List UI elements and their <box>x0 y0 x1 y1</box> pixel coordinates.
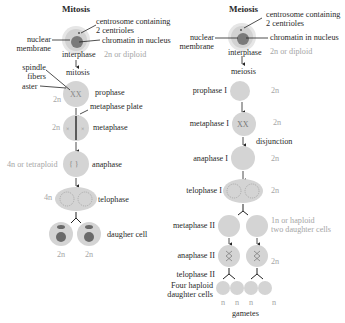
svg-text:×: × <box>81 126 84 132</box>
meiosis-gamete-ploidy-2: n <box>235 298 239 307</box>
mitosis-stage-telophase: telophase <box>98 195 129 204</box>
mitosis-nuclear-membrane-label: nuclearmembrane <box>5 35 51 53</box>
mitosis-stage-anaphase: anaphase <box>92 160 122 169</box>
mitosis-spindle-label: spindlefibers <box>10 63 46 81</box>
meiosis-metaphase2-cell-a <box>218 215 240 237</box>
svg-text:XX: XX <box>70 90 82 99</box>
mitosis-daughter-ploidy-2: 2n <box>85 250 93 259</box>
meiosis-stage-meiosis: meiosis <box>231 67 256 76</box>
meiosis-gamete-ploidy-4: n <box>272 298 276 307</box>
mitosis-stage-mitosis: mitosis <box>66 68 90 77</box>
meiosis-ploidy-anaphase1: 2n <box>271 154 279 163</box>
mitosis-anaphase-cell: { } <box>63 151 89 177</box>
meiosis-ploidy-metaphase2: 1n or haploidtwo daughter cells <box>271 216 331 234</box>
meiosis-gamete-ploidy-3: n <box>249 298 253 307</box>
meiosis-anaphase2-cell-b <box>246 245 268 267</box>
meiosis-stage-telophase2: telophase II <box>160 270 215 279</box>
meiosis-gamete-ploidy-1: n <box>221 298 225 307</box>
meiosis-chromatin-label: chromatin in nucleus <box>270 33 339 42</box>
meiosis-gametes-caption: gametes <box>232 309 259 318</box>
meiosis-disjunction-label: disjunction <box>256 137 292 146</box>
mitosis-stage-metaphase: metaphase <box>93 123 128 132</box>
mitosis-ploidy-metaphase: 2n <box>52 123 60 132</box>
mitosis-prophase-cell: XX <box>63 81 89 107</box>
meiosis-ploidy-interphase: 2n or diploid <box>270 47 312 56</box>
mitosis-stage-prophase: prophase <box>95 88 125 97</box>
meiosis-ploidy-anaphase2: 2n <box>271 257 279 266</box>
mitosis-centrosome-label: centrosome containing2 centrioles <box>96 17 170 35</box>
mitosis-stage-interphase: interphase <box>62 50 96 59</box>
mitosis-ploidy-anaphase: 4n or tetraploid <box>7 160 57 169</box>
meiosis-stage-metaphase2: metaphase II <box>160 221 215 230</box>
meiosis-interphase-cell <box>228 23 256 51</box>
meiosis-ploidy-telophase1: 2n <box>271 186 279 195</box>
mitosis-title: Mitosis <box>62 5 90 14</box>
mitosis-telophase-cell <box>55 187 97 211</box>
meiosis-anaphase1-cell <box>231 146 255 170</box>
mitosis-ploidy-interphase: 2n or diploid <box>104 50 146 59</box>
meiosis-stage-telophase1: telophase I <box>170 186 222 195</box>
mitosis-metaphase-cell: × × <box>63 115 89 141</box>
svg-text:{ }: { } <box>69 160 79 169</box>
meiosis-stage-metaphase1: metaphase I <box>170 119 229 128</box>
mitosis-ploidy-prophase: 2n <box>53 95 61 104</box>
meiosis-centrosome-label: centrosome containing2 centrioles <box>266 10 340 28</box>
mitosis-stage-daughter-cell: daugher cell <box>107 230 147 239</box>
svg-text:XX: XX <box>237 120 249 129</box>
mitosis-daughter-ploidy-1: 2n <box>57 250 65 259</box>
meiosis-ploidy-metaphase1: 2n <box>273 118 281 127</box>
mitosis-ploidy-telophase: 4n <box>44 193 52 202</box>
meiosis-anaphase2-cell-a <box>218 245 240 267</box>
meiosis-gametes <box>216 281 272 295</box>
meiosis-title: Meiosis <box>229 5 258 14</box>
mitosis-daughter-cells <box>49 222 101 246</box>
meiosis-stage-anaphase2: anaphase II <box>160 251 215 260</box>
mitosis-aster-label: aster <box>22 82 37 91</box>
meiosis-stage-prophase1: prophase I <box>170 86 227 95</box>
meiosis-stage-interphase: interphase <box>228 48 262 57</box>
meiosis-telophase1-cell <box>223 179 263 203</box>
meiosis-metaphase2-cell-b <box>246 215 268 237</box>
meiosis-prophase1-cell <box>230 81 250 101</box>
mitosis-chromatin-label: chromatin in nucleus <box>102 36 171 45</box>
meiosis-stage-anaphase1: anaphase I <box>170 154 228 163</box>
meiosis-final-label: Four haploiddaughter cells <box>155 281 213 299</box>
meiosis-ploidy-prophase1: 2n <box>271 86 279 95</box>
meiosis-nuclear-membrane-label: nuclearmembrane <box>170 33 214 51</box>
mitosis-metaphase-plate-label: metaphase plate <box>90 102 143 111</box>
svg-text:×: × <box>66 126 69 132</box>
